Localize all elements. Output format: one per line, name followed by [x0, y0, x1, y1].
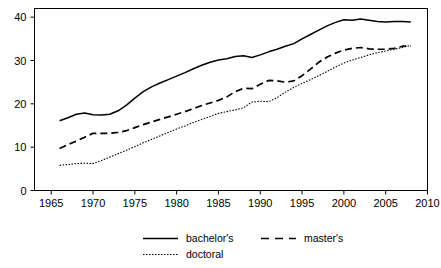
- y-tick-label: 20: [14, 98, 26, 110]
- chart-legend: bachelor's master's doctoral: [143, 232, 343, 260]
- series-line-doctoral: [60, 45, 411, 165]
- x-axis-ticks: [51, 191, 427, 195]
- x-tick-label: 2010: [415, 197, 439, 209]
- x-tick-label: 1990: [248, 197, 272, 209]
- x-tick-label: 1965: [39, 197, 63, 209]
- chart-figure: 010203040 196519701975198019851990199520…: [0, 0, 441, 268]
- x-tick-label: 1970: [81, 197, 105, 209]
- line-chart: 010203040 196519701975198019851990199520…: [0, 0, 441, 268]
- x-axis-tick-labels: 1965197019751980198519901995200020052010: [39, 197, 440, 209]
- y-tick-label: 10: [14, 141, 26, 153]
- y-tick-label: 30: [14, 55, 26, 67]
- y-tick-label: 40: [14, 11, 26, 23]
- x-tick-label: 1980: [164, 197, 188, 209]
- legend-label-bachelors: bachelor's: [186, 232, 234, 244]
- legend-entry-bachelors: bachelor's: [143, 232, 234, 244]
- x-tick-label: 1975: [123, 197, 147, 209]
- y-axis-ticks: [31, 17, 35, 190]
- legend-label-masters: master's: [304, 232, 343, 244]
- y-tick-label: 0: [20, 185, 26, 197]
- legend-entry-masters: master's: [261, 232, 343, 244]
- x-tick-label: 2005: [373, 197, 397, 209]
- legend-label-doctoral: doctoral: [186, 248, 223, 260]
- x-tick-label: 1995: [290, 197, 314, 209]
- x-tick-label: 2000: [332, 197, 356, 209]
- series-line-masters: [60, 46, 411, 149]
- series-line-bachelors: [60, 19, 411, 121]
- x-tick-label: 1985: [206, 197, 230, 209]
- y-axis-tick-labels: 010203040: [14, 11, 26, 196]
- legend-entry-doctoral: doctoral: [143, 248, 223, 260]
